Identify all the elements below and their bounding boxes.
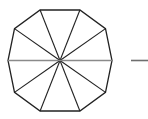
decagon-diagram bbox=[0, 0, 148, 119]
figure-canvas bbox=[0, 0, 148, 119]
